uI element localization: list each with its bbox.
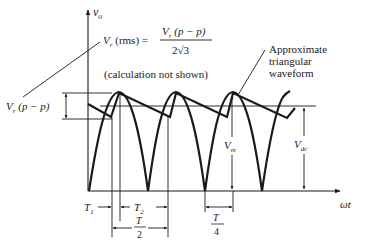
triangular-annotation: Approximate triangular waveform bbox=[238, 43, 327, 95]
triangular-leader-line bbox=[238, 50, 265, 95]
rms-formula: Vr (rms) = Vr (p − p) 2√3 bbox=[103, 25, 212, 56]
ripple-pp-label: Vr (p − p) bbox=[6, 100, 50, 115]
ripple-sawtooth bbox=[88, 93, 295, 118]
y-axis-label: vo bbox=[93, 5, 102, 21]
half-period-numerator: T bbox=[136, 215, 143, 226]
ripple-waveform-diagram: vo ωt Vr (p − p) Vr (rms) = bbox=[0, 0, 366, 249]
sine-lobe-1 bbox=[89, 92, 148, 191]
formula-denominator: 2√3 bbox=[172, 44, 190, 56]
sawtooth-path bbox=[88, 93, 295, 118]
x-axis-label: ωt bbox=[340, 198, 352, 210]
formula-numerator: Vr (p − p) bbox=[162, 25, 206, 40]
triangular-label-line3: waveform bbox=[269, 67, 314, 79]
triangular-label-line1: Approximate bbox=[269, 43, 327, 55]
triangular-label-line2: triangular bbox=[269, 55, 312, 67]
t2-label: T2 bbox=[134, 201, 144, 216]
calculation-note: (calculation not shown) bbox=[104, 68, 208, 81]
sine-lobe-2 bbox=[148, 92, 205, 191]
formula-lhs: Vr (rms) = bbox=[103, 34, 148, 49]
quarter-period-denominator: 4 bbox=[214, 226, 219, 237]
quarter-period-numerator: T bbox=[213, 212, 220, 223]
t1-label: T1 bbox=[84, 201, 94, 216]
half-period-denominator: 2 bbox=[137, 229, 142, 240]
